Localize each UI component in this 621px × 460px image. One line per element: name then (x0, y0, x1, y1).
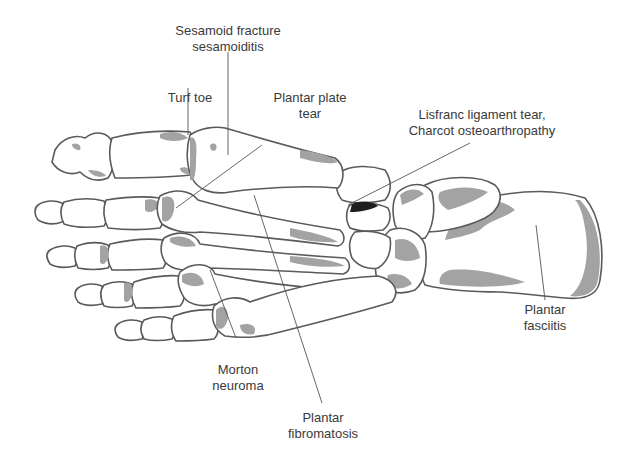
label-plantar-plate-line1: Plantar plate (262, 90, 358, 106)
label-plantar-fasciitis-line2: fasciitis (515, 318, 575, 334)
hallux-distal-phalanx (52, 133, 114, 180)
label-plantar-fasciitis-line1: Plantar (515, 302, 575, 318)
label-plantar-fibromatosis-line2: fibromatosis (278, 426, 368, 442)
label-lisfranc-line1: Lisfranc ligament tear, (394, 107, 570, 123)
label-sesamoid-line1: Sesamoid fracture (166, 23, 290, 39)
label-morton-neuroma: Morton neuroma (206, 362, 270, 394)
label-plantar-plate-tear: Plantar plate tear (262, 90, 358, 122)
label-plantar-fibromatosis: Plantar fibromatosis (278, 410, 368, 442)
label-sesamoid-line2: sesamoiditis (166, 39, 290, 55)
label-sesamoid-fracture: Sesamoid fracture sesamoiditis (166, 23, 290, 55)
foot-skeleton-diagram (0, 0, 621, 460)
label-morton-line1: Morton (206, 362, 270, 378)
label-plantar-plate-line2: tear (262, 106, 358, 122)
label-turf-toe: Turf toe (160, 90, 220, 106)
intermediate-cuneiform-bone (347, 202, 390, 232)
label-turf-toe-line1: Turf toe (160, 90, 220, 106)
label-lisfranc-line2: Charcot osteoarthropathy (394, 123, 570, 139)
label-plantar-fasciitis: Plantar fasciitis (515, 302, 575, 334)
hallux-proximal-phalanx (110, 131, 195, 178)
label-plantar-fibromatosis-line1: Plantar (278, 410, 368, 426)
label-morton-line2: neuroma (206, 378, 270, 394)
label-lisfranc: Lisfranc ligament tear, Charcot osteoart… (394, 107, 570, 139)
lateral-cuneiform-bone (350, 231, 391, 268)
